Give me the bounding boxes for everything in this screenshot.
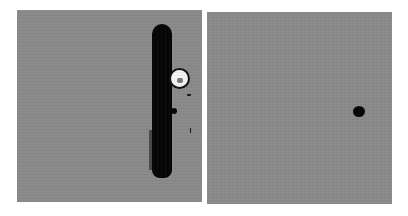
circle-inner-detail xyxy=(177,78,183,83)
left-image-panel xyxy=(17,10,202,202)
bar-fringe xyxy=(149,130,153,170)
vertical-dark-bar xyxy=(152,24,172,178)
right-image-panel xyxy=(207,12,392,204)
small-dark-dot xyxy=(171,108,177,114)
arc-speck xyxy=(187,94,191,96)
bright-circle xyxy=(169,68,190,89)
vertical-speck xyxy=(190,128,191,133)
small-dark-dot xyxy=(353,106,365,117)
